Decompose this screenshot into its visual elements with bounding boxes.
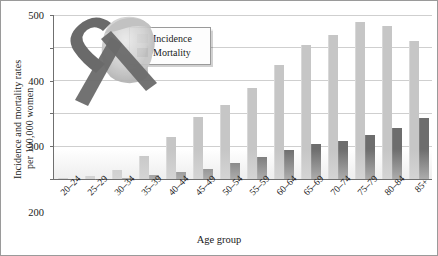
y-axis-title-line1: Incidence and mortality rates	[12, 60, 23, 179]
x-axis-tick: 25–29	[80, 181, 107, 227]
x-axis-tick: 30–34	[107, 181, 134, 227]
x-axis-tick: 45–49	[188, 181, 215, 227]
x-axis-tick: 80–84	[377, 181, 404, 227]
bar-incidence	[193, 117, 203, 179]
x-axis-tick: 35–39	[134, 181, 161, 227]
x-axis-tick-labels: 20–2425–2930–3435–3940–4445–4950–5455–59…	[53, 181, 431, 227]
bar-incidence	[166, 137, 176, 179]
y-axis-tick: 0	[50, 179, 54, 180]
bar-incidence	[409, 41, 419, 179]
bar-incidence	[382, 26, 392, 180]
bar-group	[216, 15, 243, 179]
legend-label-mortality: Mortality	[153, 47, 191, 58]
y-axis-tick-label: 400	[28, 75, 44, 86]
legend-swatch-icon-incidence	[137, 34, 148, 43]
x-axis-tick: 20–24	[53, 181, 80, 227]
legend-item-incidence: Incidence	[137, 33, 204, 44]
bar-incidence	[139, 156, 149, 179]
bar-group	[243, 15, 270, 179]
bar-incidence	[301, 45, 311, 179]
bar-group	[270, 15, 297, 179]
y-axis-tick-label: 300	[28, 141, 44, 152]
bar-incidence	[247, 88, 257, 179]
x-axis-tick: 75–79	[350, 181, 377, 227]
bar-incidence	[274, 65, 284, 179]
y-axis-title: Incidence and mortality rates per 100,00…	[1, 1, 31, 201]
legend-swatch-icon-mortality	[137, 48, 148, 57]
bar-mortality	[365, 135, 375, 179]
bar-incidence	[85, 176, 95, 179]
legend-label-incidence: Incidence	[153, 33, 192, 44]
x-axis-tick: 60–64	[269, 181, 296, 227]
bar-incidence	[355, 22, 365, 179]
chart-figure: Incidence and mortality rates per 100,00…	[0, 0, 438, 256]
x-axis-title: Age group	[1, 234, 437, 245]
x-axis-tick: 55–59	[242, 181, 269, 227]
bar-incidence	[112, 170, 122, 179]
bar-group	[351, 15, 378, 179]
bar-incidence	[58, 178, 68, 179]
x-axis-tick: 65–69	[296, 181, 323, 227]
y-axis-tick-label: 500	[28, 10, 44, 21]
chart-legend: Incidence Mortality	[129, 27, 211, 65]
bar-group	[378, 15, 405, 179]
x-axis-tick: 85+	[404, 181, 431, 227]
bar-group	[324, 15, 351, 179]
bar-incidence	[328, 35, 338, 179]
bar-groups	[54, 15, 432, 179]
x-axis-tick: 70–74	[323, 181, 350, 227]
y-axis-tick-label: 200	[28, 206, 44, 217]
bar-group	[54, 15, 81, 179]
x-axis-tick: 40–44	[161, 181, 188, 227]
bar-group	[297, 15, 324, 179]
bar-mortality	[419, 118, 429, 179]
plot-area: 0100200300400500	[53, 15, 432, 180]
legend-item-mortality: Mortality	[137, 47, 204, 58]
bar-mortality	[392, 128, 402, 179]
bar-group	[405, 15, 432, 179]
bar-incidence	[220, 105, 230, 179]
x-axis-tick: 50–54	[215, 181, 242, 227]
bar-group	[81, 15, 108, 179]
y-axis-title-line2: per 100,000 women	[24, 88, 35, 169]
